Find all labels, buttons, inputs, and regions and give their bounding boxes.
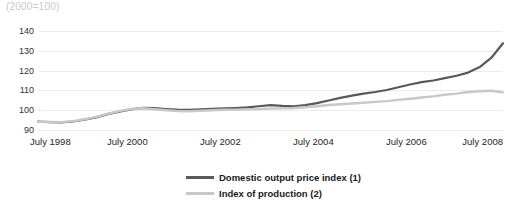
legend-swatch-icon <box>186 176 214 179</box>
chart-container: (2000=100) 90100110120130140 July 1998Ju… <box>0 0 505 208</box>
y-axis-tick-label: 140 <box>4 27 34 36</box>
x-axis-tick-label: July 2000 <box>107 136 148 147</box>
plot-area <box>38 31 503 130</box>
series-layer <box>38 31 503 130</box>
y-axis-tick-label: 130 <box>4 47 34 56</box>
x-axis-labels: July 1998July 2000July 2002July 2004July… <box>0 136 505 150</box>
legend-swatch-icon <box>186 192 214 195</box>
x-axis-tick-label: July 2008 <box>462 136 503 147</box>
y-axis-tick-label: 90 <box>4 126 34 135</box>
series-line-1 <box>38 43 503 122</box>
legend-item: Index of production (2) <box>186 186 322 200</box>
legend-item: Domestic output price index (1) <box>186 170 361 184</box>
series-line-2 <box>38 91 503 122</box>
legend-label: Domestic output price index (1) <box>219 172 361 183</box>
x-axis-tick-label: July 2004 <box>293 136 334 147</box>
y-axis-tick-label: 120 <box>4 67 34 76</box>
y-axis-tick-label: 110 <box>4 86 34 95</box>
legend-label: Index of production (2) <box>219 188 322 199</box>
chart-legend: Domestic output price index (1)Index of … <box>0 170 505 208</box>
gridline <box>38 130 503 131</box>
x-axis-tick-label: July 2002 <box>200 136 241 147</box>
x-axis-tick-label: July 1998 <box>30 136 71 147</box>
x-axis-tick-label: July 2006 <box>386 136 427 147</box>
y-axis-tick-label: 100 <box>4 106 34 115</box>
